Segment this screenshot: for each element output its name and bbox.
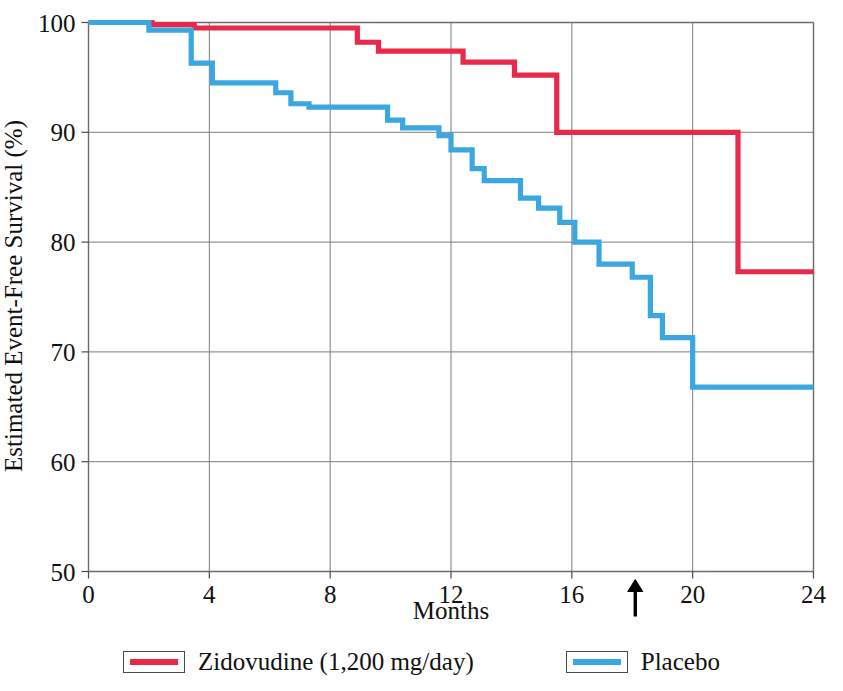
y-tick-label: 70 xyxy=(51,339,76,366)
legend-swatch-placebo xyxy=(566,651,628,673)
legend-item-zidovudine: Zidovudine (1,200 mg/day) xyxy=(123,648,474,676)
legend-swatch-zidovudine xyxy=(123,651,185,673)
y-tick-label: 60 xyxy=(51,449,76,476)
chart-legend: Zidovudine (1,200 mg/day) Placebo xyxy=(0,648,843,676)
x-tick-label: 24 xyxy=(801,581,827,608)
x-tick-label: 8 xyxy=(324,581,337,608)
x-axis-title: Months xyxy=(413,597,489,624)
y-tick-label: 100 xyxy=(38,10,76,37)
legend-label-placebo: Placebo xyxy=(641,648,720,676)
y-tick-label: 50 xyxy=(51,559,76,586)
x-tick-label: 20 xyxy=(680,581,705,608)
kaplan-meier-figure: 5060708090100 04812162024 Months Estimat… xyxy=(0,0,843,691)
grid-lines xyxy=(89,23,814,572)
y-axis-title: Estimated Event-Free Survival (%) xyxy=(0,120,28,472)
x-tick-label: 16 xyxy=(559,581,584,608)
y-tick-label: 90 xyxy=(51,119,76,146)
legend-item-placebo: Placebo xyxy=(566,648,720,676)
x-tick-label: 0 xyxy=(82,581,95,608)
legend-label-zidovudine: Zidovudine (1,200 mg/day) xyxy=(198,648,474,676)
chart-canvas: 5060708090100 04812162024 Months Estimat… xyxy=(0,0,843,691)
legend-swatch-bar-red xyxy=(130,659,178,665)
y-tick-labels: 5060708090100 xyxy=(38,10,76,586)
tick-marks xyxy=(82,23,814,579)
x-tick-label: 4 xyxy=(203,581,216,608)
legend-swatch-bar-blue xyxy=(573,659,621,665)
y-tick-label: 80 xyxy=(51,229,76,256)
chart-annotations xyxy=(628,580,643,617)
median-followup-arrow-head xyxy=(628,580,643,592)
